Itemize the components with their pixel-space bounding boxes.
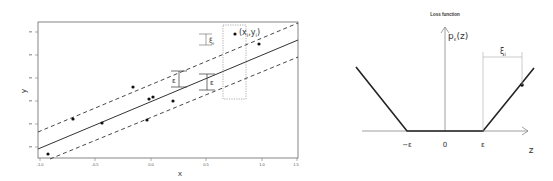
y-tick-labels xyxy=(29,31,32,148)
slack-label: ξi xyxy=(209,37,214,46)
epsilon-label: ε xyxy=(210,79,214,87)
x-axis-title: x xyxy=(178,169,182,178)
epsilon-label: ε xyxy=(172,77,176,85)
upper-epsilon-bound xyxy=(38,23,298,132)
svr-regression-plot: -1.0 -0.5 0.0 0.5 1.0 1.5 x y xyxy=(19,22,300,178)
x-tick-label: 0.0 xyxy=(148,162,154,167)
figure: -1.0 -0.5 0.0 0.5 1.0 1.5 x y xyxy=(0,0,553,181)
slack-bracket-right xyxy=(483,52,522,131)
x-axis xyxy=(40,158,297,161)
loss-plot-title: Loss function xyxy=(430,12,460,17)
tick-zero: 0 xyxy=(443,141,447,149)
x-tick-label: 1.5 xyxy=(293,162,299,167)
x-tick-label: -1.0 xyxy=(37,162,45,167)
data-points xyxy=(46,32,260,155)
y-axis xyxy=(35,32,38,147)
y-axis-title: y xyxy=(19,89,28,93)
tick-neg-epsilon: −ε xyxy=(402,141,412,149)
slack-label-right: ξi xyxy=(500,47,506,57)
regression-line xyxy=(38,40,298,149)
x-tick-label: -0.5 xyxy=(92,162,100,167)
lower-epsilon-bound xyxy=(50,57,298,159)
x-tick-label: 0.5 xyxy=(203,162,209,167)
point-label: (xi,yi) xyxy=(239,28,260,38)
x-tick-label: 1.0 xyxy=(259,162,265,167)
z-axis-title: z xyxy=(529,145,534,155)
loss-function-plot: Loss function ξi pε(z) −ε 0 ε z xyxy=(356,12,534,155)
tick-epsilon: ε xyxy=(481,141,485,149)
loss-y-label: pε(z) xyxy=(448,31,468,42)
